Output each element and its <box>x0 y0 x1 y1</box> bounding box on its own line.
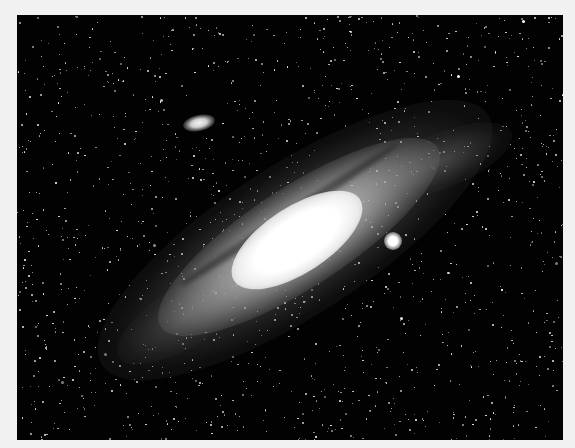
star <box>79 370 80 371</box>
star <box>25 287 27 289</box>
star <box>505 32 506 33</box>
star <box>357 336 358 337</box>
star <box>343 355 344 356</box>
star <box>445 299 446 300</box>
star <box>551 335 552 336</box>
star <box>31 404 32 405</box>
star <box>387 288 389 290</box>
star <box>19 147 20 148</box>
star <box>535 290 536 291</box>
star <box>542 146 543 147</box>
star <box>368 113 369 114</box>
star <box>215 398 216 399</box>
star <box>381 17 382 18</box>
star <box>413 39 414 40</box>
star <box>76 229 77 230</box>
star <box>266 431 267 432</box>
star <box>523 174 525 176</box>
star <box>362 109 363 110</box>
star <box>314 439 315 440</box>
star <box>40 94 42 96</box>
star <box>516 374 517 375</box>
star <box>333 384 334 385</box>
star <box>237 364 238 365</box>
star <box>546 320 547 321</box>
star <box>501 175 502 176</box>
star <box>109 218 110 219</box>
star <box>190 215 191 216</box>
star <box>84 290 85 291</box>
star <box>185 17 186 18</box>
star <box>344 370 345 371</box>
star <box>257 381 258 382</box>
star <box>92 28 93 29</box>
star <box>53 428 54 429</box>
star <box>370 306 371 307</box>
star <box>554 241 555 242</box>
star <box>21 124 23 126</box>
star <box>237 110 238 111</box>
star <box>528 322 529 323</box>
star <box>516 158 517 159</box>
star <box>72 379 74 381</box>
star <box>526 167 527 168</box>
star <box>126 393 127 394</box>
star <box>110 41 111 42</box>
star <box>532 96 533 97</box>
star <box>84 408 85 409</box>
star <box>537 197 538 198</box>
star <box>322 85 323 86</box>
star <box>153 244 156 247</box>
star <box>474 313 475 314</box>
star <box>461 228 463 230</box>
star <box>44 130 45 131</box>
star <box>490 418 491 419</box>
star <box>339 20 341 22</box>
star <box>521 18 523 20</box>
star <box>552 161 553 162</box>
star <box>438 84 439 85</box>
star <box>477 91 478 92</box>
star <box>350 86 351 87</box>
star <box>478 187 479 188</box>
star <box>412 264 413 265</box>
star <box>160 160 161 161</box>
star <box>465 88 466 89</box>
star <box>89 327 90 328</box>
star <box>539 220 540 221</box>
star <box>77 408 78 409</box>
star <box>362 438 363 439</box>
star <box>322 424 323 425</box>
star <box>75 16 76 17</box>
star <box>206 422 207 423</box>
star <box>76 287 77 288</box>
star <box>199 382 201 384</box>
star <box>244 176 246 178</box>
star <box>64 208 65 209</box>
star <box>212 173 213 174</box>
star <box>31 294 33 296</box>
star <box>506 57 507 58</box>
star <box>347 304 348 305</box>
star <box>203 179 204 180</box>
star <box>521 109 522 110</box>
star <box>310 68 311 69</box>
star <box>84 155 85 156</box>
star <box>528 38 529 39</box>
star <box>448 272 450 274</box>
star <box>234 101 235 102</box>
star <box>179 150 180 151</box>
star <box>546 146 547 147</box>
star <box>217 416 218 417</box>
star <box>68 152 69 153</box>
star <box>553 135 554 136</box>
star <box>300 29 301 30</box>
star <box>521 164 522 165</box>
star <box>518 424 519 425</box>
star <box>211 433 212 434</box>
star <box>38 323 39 324</box>
star <box>130 183 131 184</box>
star <box>189 27 190 28</box>
star <box>455 245 456 246</box>
star <box>158 413 159 414</box>
